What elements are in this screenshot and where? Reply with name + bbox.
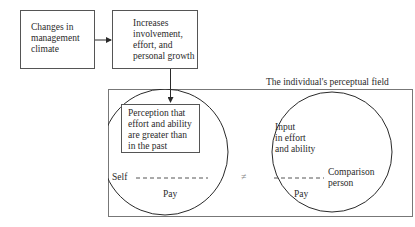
self-pay-label: Pay — [163, 189, 177, 200]
self-label: Self — [112, 172, 127, 183]
comparison-person-label: Comparison person — [328, 167, 374, 189]
management-climate-text: Changes in management climate — [31, 22, 80, 55]
not-equal-symbol: ≠ — [241, 172, 246, 183]
perception-text: Perception that effort and ability are g… — [128, 108, 192, 152]
perceptual-field-label: The individual's perceptual field — [266, 77, 389, 88]
comparison-pay-label: Pay — [294, 189, 308, 200]
input-effort-text: Input in effort and ability — [275, 122, 315, 155]
involvement-text: Increases involvement, effort, and perso… — [133, 18, 194, 62]
